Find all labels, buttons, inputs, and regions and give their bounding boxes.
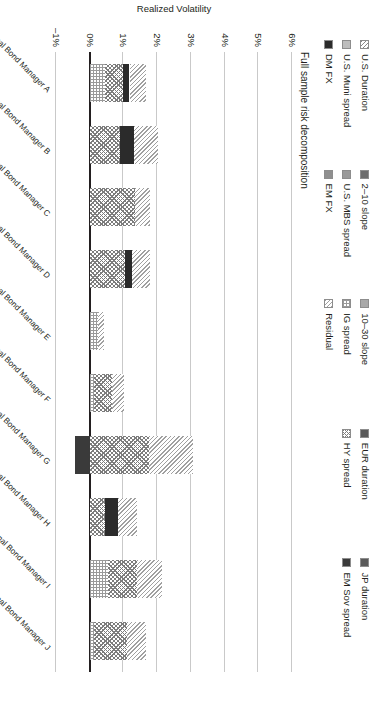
legend-swatch-icon [325, 170, 334, 179]
y-axis-tick-label: 3% [185, 33, 196, 47]
bar-segment [130, 64, 147, 102]
bar-segment [108, 560, 137, 598]
y-axis-tick-label: 6% [287, 33, 298, 47]
bar-segment [90, 312, 98, 350]
y-axis-tick-label: 1% [118, 33, 129, 47]
legend-item: U.S. Duration [356, 40, 374, 162]
legend-swatch-icon [361, 40, 370, 49]
chart-canvas: U.S. DurationU.S. Muni spreadDM FX2–10 s… [0, 0, 380, 708]
y-axis-tick-label: 5% [253, 33, 264, 47]
legend-label: U.S. Duration [360, 54, 370, 111]
y-axis-tick-label: 0% [84, 33, 95, 47]
bar-segment [94, 374, 113, 412]
risk-decomposition-chart: U.S. DurationU.S. Muni spreadDM FX2–10 s… [0, 0, 380, 708]
legend-label: U.S. MBS spread [342, 184, 352, 257]
chart-title: Full sample risk decomposition [299, 52, 310, 189]
bar-group[interactable]: Nontraditional Bond Manager H [56, 498, 292, 536]
bar-group[interactable]: Nontraditional Bond Manager A [56, 64, 292, 102]
legend-item: EM FX [320, 170, 338, 292]
bar-group[interactable]: Nontraditional Bond Manager F [56, 374, 292, 412]
bar-group[interactable]: Nontraditional Bond Manager B [56, 126, 292, 164]
legend-item: U.S. MBS spread [338, 170, 356, 292]
legend-label: EUR duration [360, 443, 370, 500]
legend-item: 10–30 slope [356, 299, 374, 421]
y-axis-tick-label: 2% [152, 33, 163, 47]
bar-segment [90, 436, 149, 474]
legend-item: U.S. Muni spread [338, 40, 356, 162]
bar-segment [75, 436, 90, 474]
bar-segment [134, 126, 158, 164]
legend-item: IG spread [338, 299, 356, 421]
y-axis-tick-label: 4% [219, 33, 230, 47]
legend-item: JP duration [356, 558, 374, 680]
legend-swatch-icon [361, 299, 370, 308]
legend-swatch-icon [325, 40, 334, 49]
bar-group[interactable]: Nontraditional Bond Manager G [56, 436, 292, 474]
x-axis-category-label: Nontraditional Bond Manager A [0, 7, 52, 94]
bar-segment [90, 560, 109, 598]
bar-segment [94, 622, 128, 660]
bar-segment [90, 126, 120, 164]
plot-area: Realized Volatility 6%5%4%3%2%1%0%–1%Non… [56, 52, 292, 672]
bar-group[interactable]: Nontraditional Bond Manager D [56, 250, 292, 288]
legend-item: HY spread [338, 429, 356, 551]
legend-item: 2–10 slope [356, 170, 374, 292]
legend-item: Residual [320, 299, 338, 421]
legend-swatch-icon [343, 40, 352, 49]
legend-swatch-icon [343, 429, 352, 438]
bar-segment [90, 64, 105, 102]
bar-segment [105, 498, 118, 536]
legend-label: 10–30 slope [360, 313, 370, 365]
bar-segment [137, 560, 162, 598]
legend-swatch-icon [343, 170, 352, 179]
bar-segment [135, 188, 150, 226]
chart-legend: U.S. DurationU.S. Muni spreadDM FX2–10 s… [314, 40, 374, 680]
bar-segment [120, 126, 134, 164]
legend-swatch-icon [343, 299, 352, 308]
bar-segment [149, 436, 193, 474]
bar-segment [98, 312, 104, 350]
legend-swatch-icon [361, 558, 370, 567]
legend-label: EM Sov spread [342, 572, 352, 637]
y-axis-tick-label: –1% [51, 28, 62, 47]
legend-swatch-icon [361, 429, 370, 438]
bar-group[interactable]: Nontraditional Bond Manager E [56, 312, 292, 350]
bar-segment [118, 498, 137, 536]
legend-label: JP duration [360, 572, 370, 620]
legend-label: 2–10 slope [360, 184, 370, 230]
bar-segment [132, 250, 151, 288]
y-axis-title: Realized Volatility [137, 3, 211, 14]
legend-item: DM FX [320, 40, 338, 162]
bar-segment [90, 250, 125, 288]
legend-label: Residual [324, 313, 334, 350]
legend-item: EUR duration [356, 429, 374, 551]
legend-label: U.S. Muni spread [342, 54, 352, 127]
legend-item: EM Sov spread [338, 558, 356, 680]
bar-group[interactable]: Nontraditional Bond Manager I [56, 560, 292, 598]
legend-swatch-icon [343, 558, 352, 567]
bar-group[interactable]: Nontraditional Bond Manager J [56, 622, 292, 660]
bar-group[interactable]: Nontraditional Bond Manager C [56, 188, 292, 226]
bar-segment [90, 188, 136, 226]
bar-segment [125, 250, 132, 288]
legend-label: EM FX [324, 184, 334, 213]
legend-label: HY spread [342, 443, 352, 488]
legend-swatch-icon [325, 299, 334, 308]
bar-segment [90, 498, 105, 536]
bar-segment [105, 64, 124, 102]
legend-swatch-icon [361, 170, 370, 179]
legend-label: IG spread [342, 313, 352, 355]
bar-segment [128, 622, 147, 660]
bar-segment [112, 374, 124, 412]
legend-label: DM FX [324, 54, 334, 84]
